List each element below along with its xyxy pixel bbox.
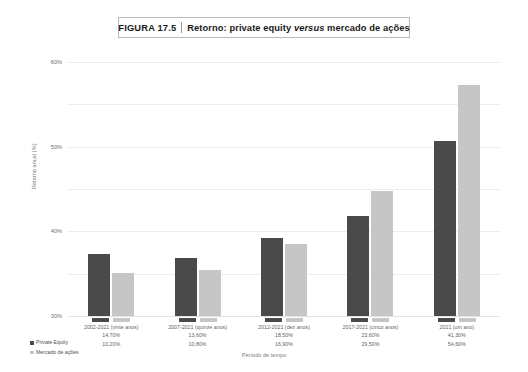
bar-mercado-de-acoes — [285, 244, 307, 316]
gridline: 0% — [68, 316, 500, 317]
bar-private-equity — [261, 238, 283, 316]
category-name: 2007-2021 (quinze anos) — [154, 323, 240, 331]
swatch-private-equity — [438, 318, 455, 322]
figure-title-main: Retorno: private equity versus mercado d… — [187, 23, 409, 33]
bar-mercado-de-acoes — [199, 270, 221, 316]
category-swatches — [327, 318, 413, 322]
figure-title-box: FIGURA 17.5 Retorno: private equity vers… — [118, 17, 410, 38]
category-name: 2002-2021 (vinte anos) — [68, 323, 154, 331]
category-block: 2021 (um ano)41,30%54,60% — [414, 318, 500, 348]
swatch-private-equity — [265, 318, 282, 322]
category-swatches — [414, 318, 500, 322]
category-swatches — [241, 318, 327, 322]
swatch-mercado-de-acoes — [372, 318, 389, 322]
legend-swatch-icon — [30, 341, 34, 345]
legend-item-private-equity: Private Equity — [30, 338, 79, 348]
swatch-private-equity — [179, 318, 196, 322]
value-label-private-equity: 13,60% — [154, 331, 240, 339]
swatch-mercado-de-acoes — [113, 318, 130, 322]
chart-plot-area: 0%10%20%30%40%50%60% — [68, 62, 500, 316]
category-block: 2017-2021 (cinco anos)23,60%29,50% — [327, 318, 413, 348]
bar-mercado-de-acoes — [112, 273, 134, 316]
category-swatches — [68, 318, 154, 322]
bar-mercado-de-acoes — [371, 191, 393, 316]
y-axis-tick-label: 50% — [51, 144, 62, 150]
category-block: 2007-2021 (quinze anos)13,60%10,80% — [154, 318, 240, 348]
x-axis-title: Período de tempo — [0, 352, 528, 358]
bar-private-equity — [434, 141, 456, 316]
figure-title-text: FIGURA 17.5 Retorno: private equity vers… — [118, 22, 409, 33]
swatch-mercado-de-acoes — [200, 318, 217, 322]
category-name: 2012-2021 (dez anos) — [241, 323, 327, 331]
value-label-private-equity: 18,50% — [241, 331, 327, 339]
bar-private-equity — [175, 258, 197, 316]
value-label-private-equity: 41,30% — [414, 331, 500, 339]
value-label-private-equity: 14,70% — [68, 331, 154, 339]
bar-mercado-de-acoes — [458, 85, 480, 316]
swatch-private-equity — [351, 318, 368, 322]
figure-title-prefix: Retorno: private equity — [187, 23, 294, 33]
category-block: 2002-2021 (vinte anos)14,70%10,20% — [68, 318, 154, 348]
value-label-private-equity: 23,60% — [327, 331, 413, 339]
swatch-mercado-de-acoes — [286, 318, 303, 322]
y-axis-tick-label: 30% — [51, 313, 62, 319]
bar-private-equity — [88, 254, 110, 316]
figure-title-italic: versus — [294, 23, 325, 33]
y-axis-title: Retorno anual (%) — [31, 143, 37, 189]
bar-group — [68, 62, 154, 316]
bar-group — [154, 62, 240, 316]
figure-number-label: FIGURA 17.5 — [118, 23, 176, 33]
value-label-mercado-de-acoes: 16,90% — [241, 340, 327, 348]
legend-label: Private Equity — [36, 338, 68, 348]
swatch-private-equity — [92, 318, 109, 322]
value-label-mercado-de-acoes: 54,60% — [414, 340, 500, 348]
bar-group — [241, 62, 327, 316]
title-divider — [181, 22, 182, 33]
swatch-mercado-de-acoes — [459, 318, 476, 322]
category-block: 2012-2021 (dez anos)18,50%16,90% — [241, 318, 327, 348]
figure-title-suffix: mercado de ações — [324, 23, 409, 33]
category-name: 2017-2021 (cinco anos) — [327, 323, 413, 331]
category-swatches — [154, 318, 240, 322]
value-label-mercado-de-acoes: 10,80% — [154, 340, 240, 348]
bar-group — [414, 62, 500, 316]
bar-group — [327, 62, 413, 316]
y-axis-tick-label: 60% — [51, 59, 62, 65]
bar-private-equity — [347, 216, 369, 316]
category-name: 2021 (um ano) — [414, 323, 500, 331]
value-label-mercado-de-acoes: 10,20% — [68, 340, 154, 348]
value-label-mercado-de-acoes: 29,50% — [327, 340, 413, 348]
y-axis-tick-label: 40% — [51, 228, 62, 234]
